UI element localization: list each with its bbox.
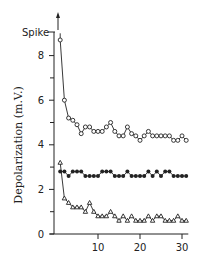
y-tick-label: 6 bbox=[38, 95, 44, 106]
data-point bbox=[134, 134, 138, 138]
data-point bbox=[79, 170, 83, 174]
data-point bbox=[125, 125, 129, 129]
series-open-circles bbox=[58, 33, 188, 142]
data-point bbox=[100, 170, 104, 174]
data-point bbox=[58, 160, 62, 164]
data-point bbox=[109, 170, 113, 174]
data-point bbox=[142, 134, 146, 138]
data-point bbox=[155, 170, 159, 174]
data-point bbox=[75, 205, 79, 209]
data-point bbox=[172, 174, 176, 178]
data-point bbox=[62, 196, 66, 200]
data-point bbox=[159, 214, 163, 218]
series-filled-circles bbox=[58, 170, 188, 178]
y-tick-label: 0 bbox=[38, 229, 44, 240]
data-point bbox=[92, 209, 96, 213]
data-point bbox=[113, 174, 117, 178]
data-point bbox=[138, 218, 142, 222]
data-point bbox=[167, 170, 171, 174]
data-point bbox=[134, 174, 138, 178]
data-point bbox=[104, 125, 108, 129]
data-point bbox=[129, 214, 133, 218]
data-point bbox=[184, 138, 188, 142]
data-point bbox=[172, 138, 176, 142]
data-point bbox=[88, 125, 92, 129]
data-point bbox=[155, 134, 159, 138]
y-axis-title: Depolarization (m.V.) bbox=[12, 86, 25, 203]
data-point bbox=[117, 134, 121, 138]
series-layer bbox=[58, 33, 188, 222]
data-point bbox=[104, 170, 108, 174]
x-tick-label: 10 bbox=[92, 242, 105, 253]
data-point bbox=[142, 174, 146, 178]
data-point bbox=[151, 134, 155, 138]
data-point bbox=[83, 125, 87, 129]
data-point bbox=[96, 129, 100, 133]
y-axis-label: Depolarization (m.V.) bbox=[12, 86, 25, 203]
data-point bbox=[88, 174, 92, 178]
data-point bbox=[67, 116, 71, 120]
chart: Depolarization (m.V.) 02468102030 Spike bbox=[0, 0, 201, 263]
data-point bbox=[121, 214, 125, 218]
data-point bbox=[184, 174, 188, 178]
data-point bbox=[71, 118, 75, 122]
data-point bbox=[176, 138, 180, 142]
data-point bbox=[92, 174, 96, 178]
data-point bbox=[79, 205, 83, 209]
data-point bbox=[138, 138, 142, 142]
arrowhead-icon bbox=[56, 12, 60, 18]
data-point bbox=[130, 174, 134, 178]
data-point bbox=[146, 129, 150, 133]
data-point bbox=[117, 174, 121, 178]
y-tick-label: 4 bbox=[38, 139, 44, 150]
data-point bbox=[79, 132, 83, 136]
data-point bbox=[113, 129, 117, 133]
data-point bbox=[167, 134, 171, 138]
data-point bbox=[62, 98, 66, 102]
data-point bbox=[155, 214, 159, 218]
data-point bbox=[121, 174, 125, 178]
data-point bbox=[83, 174, 87, 178]
data-point bbox=[58, 38, 62, 42]
data-point bbox=[180, 134, 184, 138]
y-tick-label: 2 bbox=[38, 184, 44, 195]
data-point bbox=[163, 170, 167, 174]
data-point bbox=[176, 214, 180, 218]
data-point bbox=[109, 121, 113, 125]
data-point bbox=[159, 174, 163, 178]
data-point bbox=[159, 134, 163, 138]
series-open-triangles bbox=[58, 160, 188, 222]
data-point bbox=[75, 170, 79, 174]
x-tick-label: 20 bbox=[134, 242, 147, 253]
data-point bbox=[100, 129, 104, 133]
data-point bbox=[151, 174, 155, 178]
data-point bbox=[125, 170, 129, 174]
data-point bbox=[167, 218, 171, 222]
data-point bbox=[67, 174, 71, 178]
data-point bbox=[75, 123, 79, 127]
x-tick-label: 30 bbox=[176, 242, 189, 253]
data-point bbox=[163, 134, 167, 138]
data-point bbox=[92, 129, 96, 133]
data-point bbox=[87, 200, 91, 204]
data-point bbox=[138, 174, 142, 178]
data-point bbox=[108, 209, 112, 213]
data-point bbox=[180, 174, 184, 178]
data-point bbox=[100, 214, 104, 218]
data-point bbox=[96, 174, 100, 178]
data-point bbox=[130, 132, 134, 136]
data-point bbox=[146, 170, 150, 174]
spike-label: Spike bbox=[22, 27, 49, 38]
data-point bbox=[62, 170, 66, 174]
data-point bbox=[71, 170, 75, 174]
data-point bbox=[184, 218, 188, 222]
y-tick-label: 8 bbox=[38, 50, 44, 61]
data-point bbox=[146, 214, 150, 218]
data-point bbox=[176, 174, 180, 178]
data-point bbox=[121, 134, 125, 138]
